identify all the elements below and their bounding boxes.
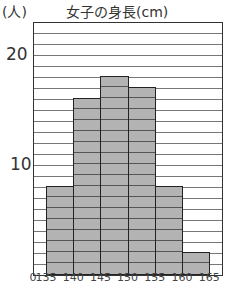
xtick-label: 155 <box>144 271 165 281</box>
xtick-label: 145 <box>90 271 111 281</box>
xtick-label: 135 <box>36 271 57 281</box>
gridline <box>34 55 222 56</box>
histogram-bar <box>100 76 128 275</box>
histogram-bar <box>73 98 101 275</box>
xtick-label: 160 <box>172 271 193 281</box>
y-axis-unit: (人) <box>2 1 27 21</box>
ytick-10: 10 <box>10 154 32 174</box>
gridline <box>34 66 222 67</box>
gridline <box>34 44 222 45</box>
histogram-bar <box>128 87 156 275</box>
xtick-label: 150 <box>117 271 138 281</box>
xtick-label: 165 <box>199 271 220 281</box>
ytick-20: 20 <box>6 44 28 64</box>
histogram-bar <box>155 186 183 275</box>
chart-title: 女子の身長(cm) <box>66 1 168 21</box>
plot-area <box>33 22 223 276</box>
xtick-label: 140 <box>63 271 84 281</box>
gridline <box>34 33 222 34</box>
histogram-bar <box>46 186 74 275</box>
